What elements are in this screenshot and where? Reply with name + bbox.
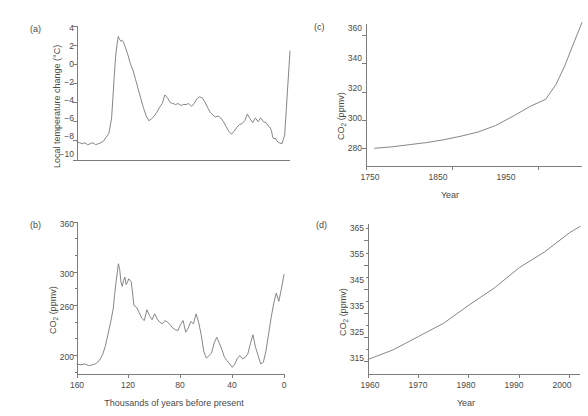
panel-b: (b) CO2 (ppmv) 360 300 260 200 160 120 8…: [0, 208, 294, 416]
panel-a-plot: [0, 0, 294, 208]
panel-c-plot: [294, 0, 588, 208]
climate-figure: (a) Local temperature change (°C) 4 2 0 …: [0, 0, 588, 416]
panel-d: (d) CO2 (ppmv) 365 355 345 335 325 315 1…: [294, 208, 588, 416]
panel-c: (c) CO2 (ppmv) 360 340 320 300 280 1750 …: [294, 0, 588, 208]
panel-a: (a) Local temperature change (°C) 4 2 0 …: [0, 0, 294, 208]
panel-d-plot: [294, 208, 588, 416]
panel-b-plot: [0, 208, 294, 416]
